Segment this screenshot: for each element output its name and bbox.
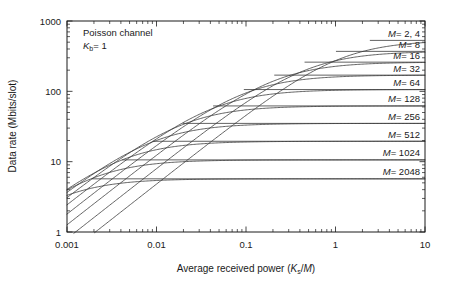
- curve-----2--4: [95, 43, 425, 233]
- chart-figure: 1101001000 0.0010.010.1110 M= 2, 4M= 8M=…: [0, 0, 452, 283]
- plot-frame: [67, 21, 425, 232]
- y-tick-label: 10: [50, 156, 61, 167]
- series-label-symbol: M: [388, 129, 396, 140]
- x-tick-label: 0.01: [147, 239, 166, 250]
- x-tick-label: 10: [420, 239, 431, 250]
- poisson-channel-capacity-chart: 1101001000 0.0010.010.1110 M= 2, 4M= 8M=…: [0, 0, 452, 283]
- x-axis-title: Average received power (Ks/M): [177, 263, 315, 275]
- series-label-symbol: M: [388, 93, 396, 104]
- series-label-value: = 2, 4: [396, 28, 420, 39]
- series-label-4: M= 64: [393, 77, 420, 88]
- curve-----8: [74, 52, 425, 233]
- curve-----128: [67, 106, 425, 198]
- series-label-symbol: M: [393, 63, 401, 74]
- series-label-symbol: M: [388, 28, 396, 39]
- x-tick-label: 1: [333, 239, 338, 250]
- series-label-value: = 8: [407, 39, 420, 50]
- series-label-symbol: M: [399, 39, 407, 50]
- y-tick-label: 1000: [40, 16, 61, 27]
- curve-----32: [67, 75, 425, 214]
- series-labels: M= 2, 4M= 8M= 16M= 32M= 64M= 128M= 256M=…: [383, 28, 420, 177]
- series-label-value: = 2048: [391, 166, 420, 177]
- curve-----512: [67, 141, 425, 189]
- curve-----2048: [67, 179, 425, 196]
- series-label-symbol: M: [393, 77, 401, 88]
- series-label-value: = 128: [396, 93, 420, 104]
- series-label-value: = 64: [401, 77, 420, 88]
- series-label-9: M= 2048: [383, 166, 420, 177]
- series-label-0: M= 2, 4: [388, 28, 420, 39]
- series-label-symbol: M: [383, 147, 391, 158]
- series-label-value: = 512: [396, 129, 420, 140]
- curve-----16: [67, 62, 425, 224]
- data-curves: [67, 40, 425, 233]
- series-label-value: = 16: [401, 50, 420, 61]
- series-label-value: = 256: [396, 111, 420, 122]
- y-tick-label: 100: [45, 86, 61, 97]
- series-label-value: = 32: [401, 63, 420, 74]
- series-label-value: = 1024: [391, 147, 420, 158]
- series-label-2: M= 16: [393, 50, 420, 61]
- y-axis-title: Data rate (Mbits/slot): [7, 80, 18, 173]
- annotation-kb-value: = 1: [93, 40, 106, 51]
- series-label-symbol: M: [383, 166, 391, 177]
- series-label-7: M= 512: [388, 129, 420, 140]
- series-label-symbol: M: [393, 50, 401, 61]
- series-label-symbol: M: [388, 111, 396, 122]
- series-label-3: M= 32: [393, 63, 420, 74]
- series-label-1: M= 8: [399, 39, 420, 50]
- x-tick-label: 0.1: [239, 239, 252, 250]
- y-tick-label: 1: [56, 227, 61, 238]
- annotation-poisson-channel: Poisson channel: [83, 27, 153, 38]
- x-axis-title-main: Average received power (: [177, 263, 291, 274]
- series-label-5: M= 128: [388, 93, 420, 104]
- y-tick-labels: 1101001000: [40, 16, 61, 238]
- annotation-kb: Kb= 1: [83, 40, 107, 52]
- curve-----256: [67, 123, 425, 192]
- axis-ticks: [67, 21, 425, 232]
- x-tick-label: 0.001: [55, 239, 79, 250]
- curve-----64: [67, 90, 425, 205]
- x-axis-title-close: ): [312, 263, 315, 274]
- series-label-6: M= 256: [388, 111, 420, 122]
- x-tick-labels: 0.0010.010.1110: [55, 239, 430, 250]
- series-label-8: M= 1024: [383, 147, 420, 158]
